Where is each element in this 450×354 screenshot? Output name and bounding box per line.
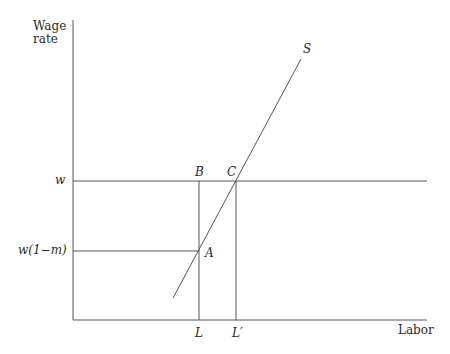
- y-axis-label-line2: rate: [33, 33, 58, 46]
- point-label-C: C: [227, 166, 236, 179]
- quantity-label-L-prime: L′: [232, 327, 243, 340]
- wage-label-net: w(1−m): [18, 244, 67, 257]
- point-label-A: A: [205, 247, 214, 260]
- quantity-label-L: L: [195, 327, 203, 340]
- diagram-canvas: [0, 0, 450, 354]
- supply-curve-label: S: [303, 43, 311, 56]
- x-axis-label: Labor: [398, 324, 434, 337]
- wage-label-w: w: [55, 174, 65, 187]
- supply-curve: [173, 59, 301, 298]
- point-label-B: B: [195, 166, 204, 179]
